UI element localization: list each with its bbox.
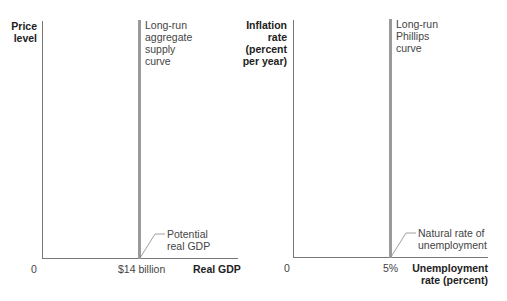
curve-label-line: aggregate — [145, 31, 192, 43]
y-label-line: (percent — [230, 43, 287, 55]
curve-label-line: Phillips — [396, 30, 438, 42]
curve-label-line: curve — [145, 55, 192, 67]
origin-label: 0 — [31, 263, 37, 275]
y-label-line: Inflation — [230, 19, 287, 31]
y-axis-label: Price level — [0, 20, 37, 44]
origin-label: 0 — [284, 262, 290, 274]
curve-label-line: supply — [145, 43, 192, 55]
callout-line: Potential — [167, 228, 210, 240]
callout-line: unemployment — [418, 239, 487, 251]
y-label-line: Price — [0, 20, 37, 32]
callout-line: Natural rate of — [418, 227, 487, 239]
x-tick-label: 5% — [383, 262, 398, 274]
y-label-line: level — [0, 32, 37, 44]
curve-label-line: Long-run — [396, 18, 438, 30]
x-axis-label: Real GDP — [193, 263, 241, 275]
y-axis-label: Inflation rate (percent per year) — [230, 19, 287, 67]
x-tick-label: $14 billion — [118, 263, 165, 275]
callout-leader — [390, 226, 420, 258]
y-label-line: rate — [230, 31, 287, 43]
lrpc-label: Long-run Phillips curve — [396, 18, 438, 54]
curve-label-line: curve — [396, 42, 438, 54]
lrpc-curve — [389, 19, 392, 258]
y-axis — [293, 20, 294, 258]
x-axis-label: Unemployment rate (percent) — [400, 262, 488, 286]
lras-curve — [138, 20, 141, 259]
curve-label-line: Long-run — [145, 19, 192, 31]
natural-rate-callout: Natural rate of unemployment — [418, 227, 487, 251]
x-label-line: Unemployment — [400, 262, 488, 274]
x-label-line: rate (percent) — [400, 274, 488, 286]
y-axis — [42, 21, 43, 259]
lras-label: Long-run aggregate supply curve — [145, 19, 192, 67]
y-label-line: per year) — [230, 55, 287, 67]
callout-line: real GDP — [167, 240, 210, 252]
callout-leader — [138, 228, 168, 260]
potential-gdp-callout: Potential real GDP — [167, 228, 210, 252]
